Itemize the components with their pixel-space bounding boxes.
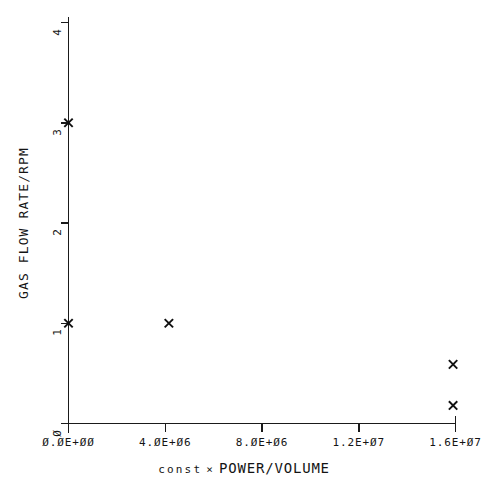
x-tick-label: 8.ØE+Ø6 — [236, 437, 289, 448]
y-axis-title: GAS FLOW RATE/RPM — [15, 147, 30, 299]
x-tick-label: 4.ØE+Ø6 — [139, 437, 192, 448]
data-markers-group — [64, 119, 457, 410]
y-tick-label: 4 — [51, 23, 62, 41]
x-tick-label: 1.2E+Ø7 — [332, 437, 385, 448]
y-tick-label: 2 — [51, 223, 62, 241]
data-point-marker — [165, 319, 173, 327]
x-tick-label: Ø.ØE+ØØ — [42, 437, 95, 448]
x-axis-title-main: POWER/VOLUME — [219, 460, 330, 476]
y-tick-label: Ø — [51, 424, 62, 442]
axes-group — [63, 17, 456, 433]
x-tick-label: 1.6E+Ø7 — [429, 437, 482, 448]
data-point-marker — [449, 401, 457, 409]
tick-marks-group — [61, 23, 456, 432]
y-tick-label: 3 — [51, 123, 62, 141]
x-axis-title-prefix: const — [158, 463, 202, 476]
y-tick-label: 1 — [51, 323, 62, 341]
plot-canvas — [0, 0, 488, 483]
x-axis-title-times: × — [202, 463, 219, 476]
data-point-marker — [449, 360, 457, 368]
x-axis-title: const×POWER/VOLUME — [0, 458, 488, 477]
scatter-plot-figure: Ø.ØE+ØØ4.ØE+Ø68.ØE+Ø61.2E+Ø71.6E+Ø7 Ø123… — [0, 0, 488, 483]
